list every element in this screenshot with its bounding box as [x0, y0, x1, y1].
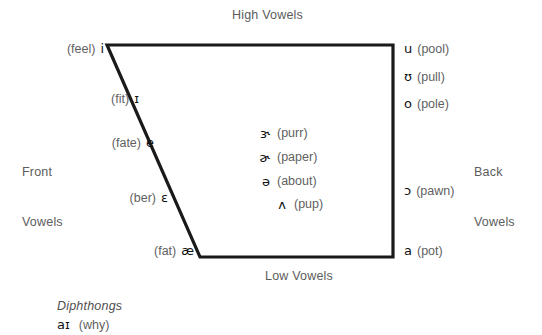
- front-vowel-symbol-fat: æ: [181, 243, 194, 258]
- high-vowels-label: High Vowels: [232, 8, 303, 23]
- back-vowel-symbol-pole: o: [404, 96, 412, 111]
- central-vowel-symbol-paper: ɚ: [259, 150, 270, 165]
- front-vowel-item-feel: (feel) i: [20, 41, 104, 56]
- front-vowel-word-fat: (fat): [154, 244, 176, 258]
- central-vowel-word-paper-wrap: (paper): [277, 150, 317, 164]
- back-vowel-item-pot: a (pot): [404, 243, 443, 258]
- vowel-quadrilateral-diagram: High Vowels Low Vowels Front Vowels Back…: [0, 0, 542, 335]
- front-vowel-word-ber: (ber): [130, 191, 156, 205]
- central-vowel-item-pup: ʌ: [230, 197, 286, 212]
- back-vowel-symbol-pawn: ɔ: [404, 183, 411, 198]
- back-vowels-axis-line2: Vowels: [474, 214, 515, 231]
- back-vowel-item-pawn: ɔ (pawn): [404, 183, 454, 198]
- back-vowel-item-pole: o (pole): [404, 96, 449, 111]
- front-vowel-word-fit: (fit): [111, 92, 129, 106]
- central-vowel-word-paper: (paper): [277, 150, 317, 164]
- central-vowel-item-purr: ɝ: [214, 126, 270, 141]
- central-vowel-word-purr: (purr): [277, 126, 308, 140]
- back-vowels-axis-label: Back Vowels: [474, 131, 515, 263]
- back-vowel-word-pole: (pole): [417, 97, 449, 111]
- central-vowel-word-pup: (pup): [294, 197, 323, 211]
- front-vowel-item-fit: (fit) ɪ: [40, 91, 139, 106]
- front-vowel-symbol-ber: ɛ: [161, 190, 168, 205]
- central-vowel-symbol-about: ə: [262, 174, 270, 189]
- back-vowel-word-pot: (pot): [417, 244, 443, 258]
- front-vowel-item-ber: (ber) ɛ: [70, 190, 168, 205]
- central-vowel-word-purr-wrap: (purr): [277, 126, 308, 140]
- front-vowel-item-fat: (fat) æ: [90, 243, 194, 258]
- front-vowels-axis-line2: Vowels: [22, 214, 63, 231]
- back-vowel-item-pull: ʊ (pull): [404, 69, 445, 84]
- front-vowel-item-fate: (fate) e: [56, 135, 154, 150]
- front-vowel-word-feel: (feel): [67, 42, 95, 56]
- front-vowel-symbol-feel: i: [100, 41, 104, 56]
- central-vowel-symbol-purr: ɝ: [260, 126, 270, 141]
- back-vowels-axis-line1: Back: [474, 164, 515, 181]
- back-vowel-symbol-pot: a: [404, 243, 412, 258]
- front-vowels-axis-line1: Front: [22, 164, 63, 181]
- front-vowel-word-fate: (fate): [112, 136, 141, 150]
- central-vowel-item-about: ə: [214, 174, 270, 189]
- diphthongs-heading: Diphthongs: [57, 299, 122, 314]
- central-vowel-item-paper: ɚ: [214, 150, 270, 165]
- low-vowels-label: Low Vowels: [265, 269, 333, 284]
- central-vowel-word-about-wrap: (about): [277, 174, 317, 188]
- diphthong-symbol-why: aɪ: [57, 317, 70, 332]
- central-vowel-symbol-pup: ʌ: [278, 197, 286, 212]
- central-vowel-word-pup-wrap: (pup): [294, 197, 323, 211]
- back-vowel-word-pawn: (pawn): [416, 184, 454, 198]
- central-vowel-word-about: (about): [277, 174, 317, 188]
- front-vowel-symbol-fate: e: [146, 135, 154, 150]
- front-vowels-axis-label: Front Vowels: [22, 131, 63, 263]
- back-vowel-symbol-pull: ʊ: [404, 69, 412, 84]
- back-vowel-item-pool: u (pool): [404, 41, 449, 56]
- diphthong-item-why: aɪ (why): [57, 317, 109, 332]
- back-vowel-word-pull: (pull): [417, 70, 445, 84]
- back-vowel-word-pool: (pool): [417, 42, 449, 56]
- back-vowel-symbol-pool: u: [404, 41, 412, 56]
- diphthong-word-why: (why): [79, 318, 110, 332]
- front-vowel-symbol-fit: ɪ: [134, 91, 139, 106]
